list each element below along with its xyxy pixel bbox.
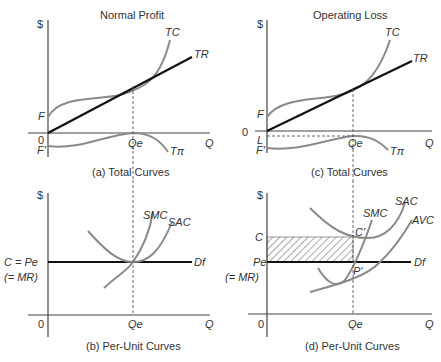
mr-label: (= MR) — [225, 271, 259, 283]
cost-curves-diagram: Normal Profit $ TC TR Tπ F 0 F' Qe Q (a)… — [0, 0, 441, 362]
panel-a-total-curves: Normal Profit $ TC TR Tπ F 0 F' Qe Q (a)… — [28, 9, 214, 180]
panel-c-total-curves: Operating Loss $ TC TR Tπ F 0 L F' Qe Q … — [242, 9, 434, 180]
sac-label: SAC — [395, 195, 418, 207]
panel-d-per-unit-curves: $ SMC SAC AVC C C' P' Pe (= MR) Df 0 Qe … — [225, 180, 434, 352]
caption-c: (c) Total Curves — [311, 166, 388, 178]
loss-area — [267, 237, 353, 262]
tr-label: TR — [194, 48, 209, 60]
f-label: F — [257, 108, 265, 120]
mr-label: (= MR) — [4, 271, 38, 283]
tr-line — [48, 57, 192, 133]
x-axis-label: Q — [205, 318, 214, 330]
origin-label: 0 — [242, 126, 248, 138]
y-axis-label: $ — [257, 18, 263, 30]
avc-label: AVC — [411, 214, 434, 226]
tc-label: TC — [385, 26, 400, 38]
panel-b-per-unit-curves: $ SMC SAC C = Pe (= MR) Df 0 Qe Q (b) Pe… — [4, 180, 214, 352]
c-label: C — [255, 231, 263, 243]
x-axis-label: Q — [425, 318, 434, 330]
y-axis-label: $ — [257, 189, 263, 201]
tr-label: TR — [413, 52, 428, 64]
qe-label: Qe — [128, 318, 143, 330]
x-axis-label: Q — [205, 137, 214, 149]
demand-label: Df — [414, 256, 426, 268]
pprime-label: P' — [353, 265, 363, 277]
origin-label: 0 — [258, 318, 264, 330]
tpi-curve — [267, 136, 388, 150]
fprime-label: F' — [37, 144, 47, 156]
smc-curve — [104, 212, 153, 288]
caption-b: (b) Per-Unit Curves — [86, 340, 181, 352]
tc-curve — [267, 40, 390, 117]
tpi-label: Tπ — [170, 145, 185, 157]
qe-label: Qe — [128, 137, 143, 149]
tpi-label: Tπ — [390, 145, 405, 157]
y-axis-label: $ — [37, 18, 43, 30]
title-operating-loss: Operating Loss — [313, 9, 388, 21]
sac-curve — [88, 222, 172, 262]
origin-label: 0 — [38, 318, 44, 330]
smc-label: SMC — [143, 209, 168, 221]
title-normal-profit: Normal Profit — [100, 9, 164, 21]
demand-label: Df — [194, 256, 206, 268]
sac-label: SAC — [168, 216, 191, 228]
fprime-label: F' — [256, 144, 266, 156]
tc-label: TC — [165, 26, 180, 38]
qe-label: Qe — [348, 318, 363, 330]
smc-label: SMC — [363, 207, 388, 219]
price-label: Pe — [253, 256, 266, 268]
y-axis-label: $ — [37, 189, 43, 201]
tr-line — [267, 61, 412, 131]
x-axis-label: Q — [425, 137, 434, 149]
caption-a: (a) Total Curves — [92, 166, 170, 178]
cprime-label: C' — [355, 226, 366, 238]
qe-label: Qe — [348, 137, 363, 149]
price-label: C = Pe — [4, 256, 38, 268]
tpi-curve — [48, 133, 168, 152]
caption-d: (d) Per-Unit Curves — [305, 340, 400, 352]
f-label: F — [38, 110, 46, 122]
